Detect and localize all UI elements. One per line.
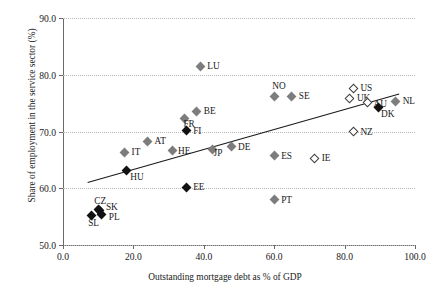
point-label-it: IT (132, 147, 141, 157)
point-label-sl: SL (88, 218, 99, 228)
point-label-pl: PL (109, 212, 120, 222)
point-label-us: US (360, 83, 372, 93)
point-label-se: SE (299, 91, 310, 101)
y-tick-label: 80.0 (39, 69, 56, 80)
x-tick-mark (415, 245, 416, 249)
x-tick-mark (274, 245, 275, 249)
point-label-ee: EE (193, 182, 204, 192)
scatter-chart: Share of employment in the service secto… (0, 0, 436, 296)
x-tick-label: 60.0 (266, 251, 283, 262)
y-tick-label: 60.0 (39, 183, 56, 194)
point-label-dk: DK (381, 109, 394, 119)
point-label-lu: LU (207, 61, 219, 71)
x-tick-label: 20.0 (125, 251, 142, 262)
point-label-sk: SK (106, 202, 118, 212)
y-tick-label: 90.0 (39, 13, 56, 24)
y-tick-label: 70.0 (39, 126, 56, 137)
point-label-at: AT (154, 136, 165, 146)
point-label-nz: NZ (360, 127, 372, 137)
x-tick-mark (133, 245, 134, 249)
point-label-cz: CZ (94, 196, 106, 206)
point-label-es: ES (281, 151, 292, 161)
y-tick-label: 50.0 (39, 240, 56, 251)
x-axis-title: Outstanding mortgage debt as % of GDP (60, 272, 390, 282)
x-tick-mark (63, 245, 64, 249)
point-label-nl: NL (403, 96, 415, 106)
point-label-fi: FI (193, 126, 201, 136)
point-label-be: BE (204, 106, 216, 116)
x-tick-label: 80.0 (336, 251, 353, 262)
x-tick-mark (204, 245, 205, 249)
x-tick-mark (345, 245, 346, 249)
gridline (63, 245, 415, 246)
point-label-jp: JP (214, 148, 223, 158)
x-tick-label: 100.0 (404, 251, 426, 262)
point-label-ie: IE (322, 153, 331, 163)
plot-area: 50.060.070.080.090.0 0.020.040.060.080.0… (63, 18, 415, 245)
point-label-pt: PT (281, 195, 292, 205)
point-label-he: HE (178, 146, 190, 156)
y-axis-title: Share of employment in the service secto… (27, 6, 38, 226)
point-label-no: NO (272, 81, 285, 91)
x-tick-label: 40.0 (195, 251, 212, 262)
x-tick-label: 0.0 (57, 251, 69, 262)
point-label-hu: HU (130, 172, 143, 182)
point-label-de: DE (238, 142, 250, 152)
